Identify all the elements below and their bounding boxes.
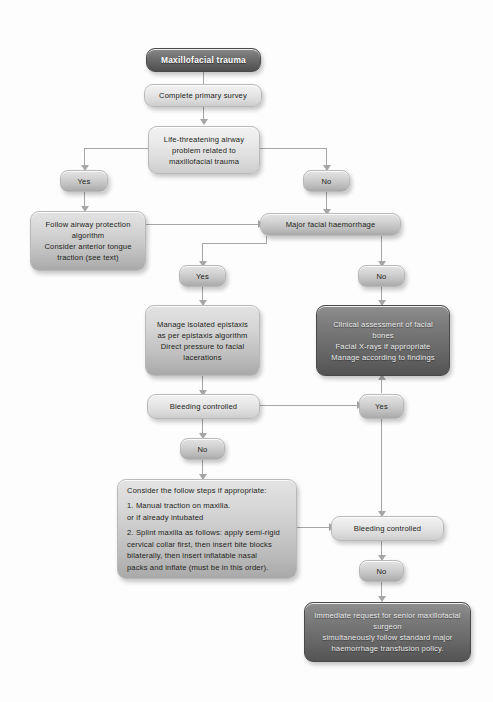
node-label: Yes	[67, 176, 101, 187]
connector-yes-trunk-to-bleeding-2	[381, 419, 382, 515]
node-label: Maxillofacial trauma	[153, 55, 254, 66]
flowchart-canvas: Maxillofacial trauma Complete primary su…	[0, 0, 493, 702]
connector-airway-branch-bus-right	[260, 148, 326, 149]
connector-haemorrhage-branch-bus	[202, 243, 267, 244]
node-label: Yes	[366, 401, 397, 412]
node-bleeding-yes-1[interactable]: Yes	[359, 394, 404, 419]
follow-steps-item-1: 1. Manual traction on maxilla. or if alr…	[127, 500, 287, 523]
connector-protection-to-haemorrhage	[146, 224, 260, 225]
node-bleeding-controlled-1[interactable]: Bleeding controlled	[147, 394, 260, 419]
follow-steps-heading: Consider the follow steps if appropriate…	[127, 485, 287, 496]
node-consider-follow-steps[interactable]: Consider the follow steps if appropriate…	[117, 479, 297, 579]
node-bleeding-no-1[interactable]: No	[180, 438, 225, 460]
node-life-threatening-airway-problem[interactable]: Life-threatening airway problem related …	[148, 126, 260, 174]
node-label: Consider the follow steps if appropriate…	[127, 485, 287, 573]
node-clinical-assessment-of-facial-bones[interactable]: Clinical assessment of facial bones Faci…	[316, 305, 450, 376]
connector-haemorrhage-branch-stem	[266, 236, 267, 244]
node-maxillofacial-trauma[interactable]: Maxillofacial trauma	[146, 48, 261, 72]
node-label: Life-threatening airway problem related …	[155, 134, 253, 167]
node-label: Major facial haemorrhage	[267, 219, 394, 230]
arrowhead-airway-question	[200, 119, 208, 125]
node-label: Bleeding controlled	[154, 401, 253, 412]
node-label: Yes	[186, 271, 219, 282]
node-haemorrhage-no[interactable]: No	[358, 265, 405, 287]
node-label: Immediate request for senior maxillofaci…	[311, 610, 464, 654]
node-label: Bleeding controlled	[338, 523, 437, 534]
connector-bleeding-1-to-yes	[260, 405, 359, 406]
node-label: Follow airway protection algorithm Consi…	[37, 219, 139, 263]
node-airway-no[interactable]: No	[303, 170, 350, 192]
node-label: Manage isolated epistaxis as per epistax…	[152, 319, 253, 363]
node-complete-primary-survey[interactable]: Complete primary survey	[144, 84, 262, 107]
connector-follow-steps-to-bleeding-2	[297, 527, 331, 528]
node-follow-airway-protection-algorithm[interactable]: Follow airway protection algorithm Consi…	[30, 211, 146, 271]
node-manage-isolated-epistaxis[interactable]: Manage isolated epistaxis as per epistax…	[145, 305, 260, 376]
node-label: No	[310, 176, 343, 187]
node-label: No	[365, 271, 398, 282]
node-immediate-request-senior-maxillofacial-surgeon[interactable]: Immediate request for senior maxillofaci…	[304, 602, 471, 662]
node-bleeding-no-2[interactable]: No	[359, 560, 404, 582]
node-airway-yes[interactable]: Yes	[60, 170, 108, 192]
connector-airway-branch-bus-left	[84, 148, 148, 149]
node-label: Clinical assessment of facial bones Faci…	[323, 319, 443, 363]
node-label: Complete primary survey	[151, 90, 255, 101]
follow-steps-item-2: 2. Splint maxilla as follows: apply semi…	[127, 527, 287, 573]
node-major-facial-haemorrhage[interactable]: Major facial haemorrhage	[260, 213, 401, 236]
node-haemorrhage-yes[interactable]: Yes	[179, 265, 226, 287]
node-bleeding-controlled-2[interactable]: Bleeding controlled	[331, 516, 444, 541]
node-label: No	[187, 444, 218, 455]
node-label: No	[366, 566, 397, 577]
